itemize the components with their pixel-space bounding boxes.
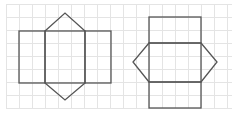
grid-paper xyxy=(6,4,232,109)
triangle-face xyxy=(133,43,149,82)
prism-nets-diagram xyxy=(0,0,246,113)
triangle-face xyxy=(45,83,85,100)
triangle-face xyxy=(45,13,85,31)
